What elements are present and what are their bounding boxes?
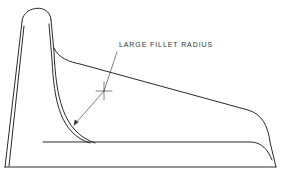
rib-top-arc xyxy=(22,8,51,22)
radius-dimension-line xyxy=(75,91,104,124)
left-inner-wall xyxy=(9,26,24,166)
upper-surface xyxy=(54,48,276,167)
fillet-radius-label: LARGE FILLET RADIUS xyxy=(119,41,213,48)
drawing-canvas xyxy=(0,0,287,176)
rib-right-inner xyxy=(49,24,90,143)
left-outer-wall xyxy=(5,22,22,167)
rib-right-outer xyxy=(51,20,95,143)
radius-arrowhead xyxy=(74,120,78,125)
shelf-line xyxy=(43,142,272,160)
